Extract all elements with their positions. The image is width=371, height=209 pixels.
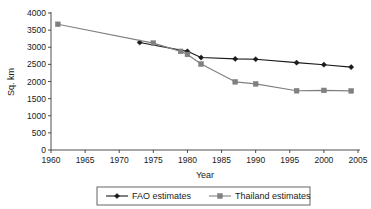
x-axis-tick-labels: 1960196519701975198019851990199520002005 (42, 155, 368, 165)
x-tick-label: 1960 (42, 155, 61, 165)
data-point-marker (321, 88, 326, 93)
x-tick-label: 1965 (76, 155, 95, 165)
y-tick-label: 1000 (27, 111, 46, 121)
data-point-marker (178, 49, 183, 54)
data-point-marker (349, 65, 354, 70)
y-axis-title: Sq. km (6, 68, 16, 96)
y-axis-tick-labels: 05001000150020002500300035004000 (27, 8, 46, 155)
y-tick-label: 2500 (27, 59, 46, 69)
y-tick-label: 1500 (27, 94, 46, 104)
x-tick-label: 1975 (144, 155, 163, 165)
series-line (140, 42, 351, 67)
chart-canvas: 05001000150020002500300035004000 1960196… (0, 0, 371, 209)
y-tick-label: 500 (32, 128, 46, 138)
data-point-marker (233, 56, 238, 61)
line-chart: 05001000150020002500300035004000 1960196… (0, 0, 371, 209)
x-tick-label: 1985 (212, 155, 231, 165)
data-point-marker (151, 41, 156, 46)
x-tick-label: 2005 (349, 155, 368, 165)
data-point-marker (185, 52, 190, 57)
y-tick-label: 0 (41, 145, 46, 155)
x-tick-label: 1990 (246, 155, 265, 165)
y-tick-label: 2000 (27, 77, 46, 87)
data-point-marker (253, 57, 258, 62)
data-point-marker (233, 79, 238, 84)
series-fao (137, 40, 354, 70)
chart-legend: FAO estimatesThailand estimates (97, 187, 311, 205)
data-point-marker (198, 55, 203, 60)
x-axis-title: Year (196, 170, 214, 180)
data-point-marker (294, 60, 299, 65)
x-tick-label: 1970 (110, 155, 129, 165)
data-point-marker (199, 62, 204, 67)
data-point-marker (55, 22, 60, 27)
x-tick-label: 1980 (178, 155, 197, 165)
y-tick-label: 4000 (27, 8, 46, 18)
y-tick-label: 3500 (27, 25, 46, 35)
y-tick-label: 3000 (27, 42, 46, 52)
legend-marker (218, 194, 223, 199)
data-point-marker (349, 89, 354, 94)
chart-axes (48, 12, 360, 153)
data-point-marker (294, 88, 299, 93)
data-point-marker (321, 62, 326, 67)
legend-label: Thailand estimates (235, 191, 311, 201)
data-point-marker (253, 81, 258, 86)
x-tick-label: 1995 (280, 155, 299, 165)
legend-label: FAO estimates (132, 191, 192, 201)
chart-series-layer (55, 22, 353, 93)
x-tick-label: 2000 (314, 155, 333, 165)
